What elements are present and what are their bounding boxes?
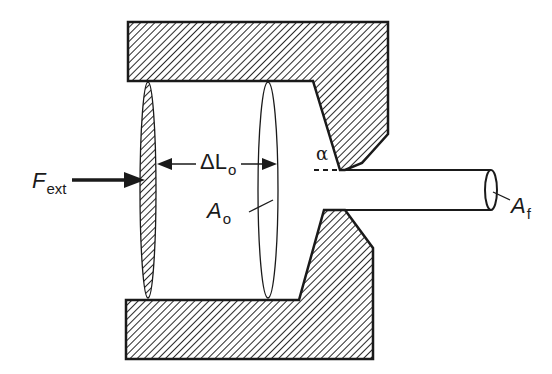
ram-piston	[140, 82, 156, 298]
extruded-rod-cross-section	[485, 170, 497, 210]
initial-area-leader	[249, 200, 273, 212]
die-angle-label: α	[316, 145, 328, 163]
billet-cross-section	[258, 82, 278, 298]
force-subscript: ext	[46, 180, 66, 197]
force-arrow	[72, 172, 145, 188]
die-angle-symbol: α	[316, 143, 328, 164]
initial-area-label: Ao	[207, 200, 231, 222]
initial-area-subscript: o	[223, 210, 231, 227]
force-symbol: F	[32, 168, 45, 193]
length-subscript: o	[228, 161, 236, 178]
force-label: Fext	[32, 170, 66, 192]
extrusion-diagram	[0, 0, 552, 374]
final-area-subscript: f	[527, 205, 531, 222]
die-lower-block	[126, 210, 373, 359]
final-area-symbol: A	[511, 193, 526, 218]
length-label: ΔLo	[200, 151, 236, 173]
length-symbol: ΔL	[200, 149, 227, 174]
final-area-label: Af	[511, 195, 531, 217]
initial-area-symbol: A	[207, 198, 222, 223]
extruded-rod	[324, 170, 497, 210]
die-upper-block	[128, 22, 388, 170]
